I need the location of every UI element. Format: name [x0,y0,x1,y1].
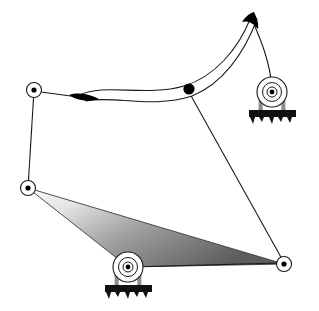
bearing-center-dot [270,90,275,95]
left-crank-link [28,90,34,188]
upper-left-pivot[interactable] [27,83,42,98]
curved-band-body [80,17,257,102]
coupler-point[interactable] [183,83,194,94]
mechanism-drawing [0,0,319,311]
upper-right-ground-bearing[interactable] [249,77,296,124]
pivot-center-dot [281,261,286,266]
lower-left-pivot[interactable] [21,181,36,196]
bearing-center-dot [126,265,131,270]
pivot-center-dot [31,87,36,92]
ground-hatch-bar [105,285,152,299]
coupler-point-to-lower-right-link [190,94,282,259]
curved-coupler-band [69,12,258,102]
lower-right-pivot[interactable] [277,257,292,272]
ground-hatch-bar [249,110,296,124]
ternary-gradient-plate [28,188,284,267]
linkage-diagram-canvas [0,0,319,311]
ternary-plate-group [28,188,284,267]
pivot-center-dot [25,185,30,190]
coupler-point-dot [183,83,194,94]
